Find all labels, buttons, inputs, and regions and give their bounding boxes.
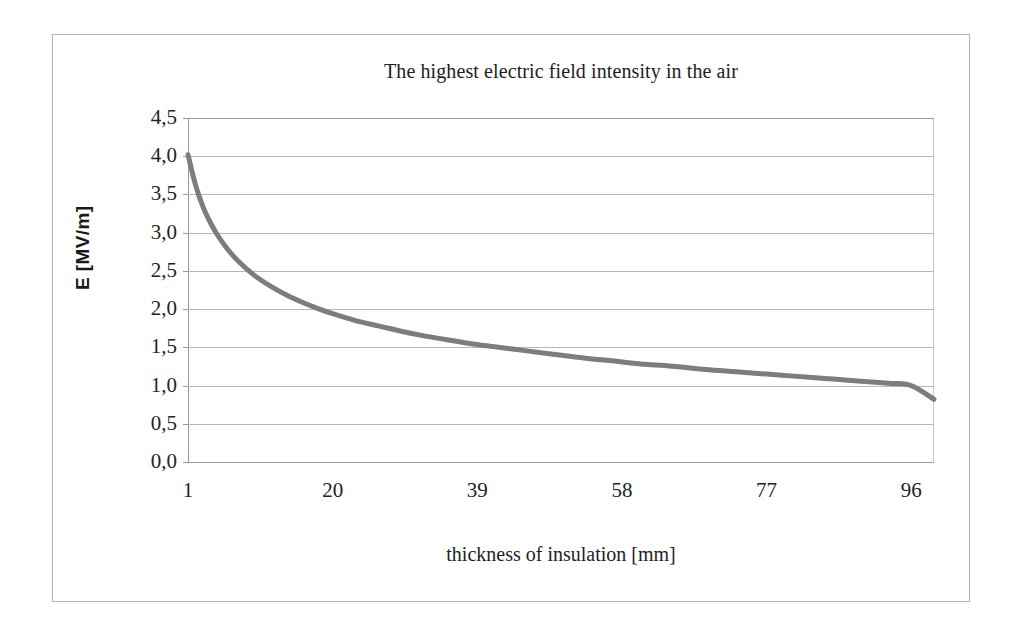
x-axis-title: thickness of insulation [mm] bbox=[188, 543, 934, 566]
y-axis-tick-label: 2,5 bbox=[151, 258, 177, 283]
chart-title: The highest electric field intensity in … bbox=[188, 60, 934, 83]
x-axis-tick-label: 58 bbox=[611, 478, 632, 503]
y-axis-tick-label: 3,5 bbox=[151, 181, 177, 206]
y-axis-title: E [MV/m] bbox=[72, 206, 94, 290]
y-axis-tick-label: 1,5 bbox=[151, 334, 177, 359]
x-axis-tick-label: 96 bbox=[901, 478, 922, 503]
y-axis-tick-label: 4,5 bbox=[151, 105, 177, 130]
chart-figure: The highest electric field intensity in … bbox=[0, 0, 1009, 643]
plot-area: 0,00,51,01,52,02,53,03,54,04,5 120395877… bbox=[188, 118, 934, 462]
x-axis-tick-label: 77 bbox=[756, 478, 777, 503]
gridline bbox=[188, 462, 934, 463]
x-axis-tick-label: 20 bbox=[322, 478, 343, 503]
y-axis-tick-label: 4,0 bbox=[151, 143, 177, 168]
y-axis-tick-mark bbox=[183, 462, 188, 463]
y-axis-tick-label: 1,0 bbox=[151, 373, 177, 398]
y-axis-tick-label: 0,5 bbox=[151, 411, 177, 436]
y-axis-tick-label: 0,0 bbox=[151, 449, 177, 474]
data-series-curve bbox=[188, 118, 934, 462]
x-axis-tick-label: 1 bbox=[183, 478, 194, 503]
y-axis-tick-label: 2,0 bbox=[151, 296, 177, 321]
y-axis-tick-label: 3,0 bbox=[151, 220, 177, 245]
x-axis-tick-label: 39 bbox=[467, 478, 488, 503]
